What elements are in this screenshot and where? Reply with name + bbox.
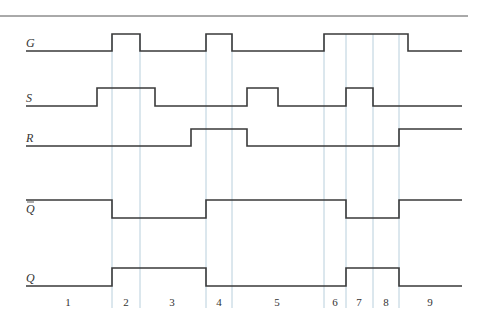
label-q-bar: Q <box>26 202 35 216</box>
waveform-q-bar <box>26 200 462 218</box>
label-q: Q <box>26 271 35 285</box>
interval-boundaries <box>112 34 399 308</box>
waveform-q <box>26 268 462 286</box>
interval-label-3: 3 <box>169 296 175 308</box>
interval-label-6: 6 <box>332 296 338 308</box>
interval-label-7: 7 <box>356 296 362 308</box>
waveform-r <box>26 129 462 146</box>
interval-label-8: 8 <box>383 296 389 308</box>
interval-labels: 123456789 <box>65 296 433 308</box>
label-g: G <box>26 36 35 50</box>
interval-label-2: 2 <box>123 296 129 308</box>
interval-label-4: 4 <box>216 296 222 308</box>
label-s: S <box>26 91 32 105</box>
waveform-s <box>26 88 462 106</box>
timing-diagram: GSRQQ 123456789 <box>0 0 487 332</box>
interval-label-1: 1 <box>65 296 71 308</box>
interval-label-9: 9 <box>427 296 433 308</box>
signal-labels: GSRQQ <box>25 36 35 285</box>
interval-label-5: 5 <box>274 296 280 308</box>
waveform-g <box>26 34 462 51</box>
label-r: R <box>25 131 34 145</box>
signal-waveforms <box>26 34 462 286</box>
